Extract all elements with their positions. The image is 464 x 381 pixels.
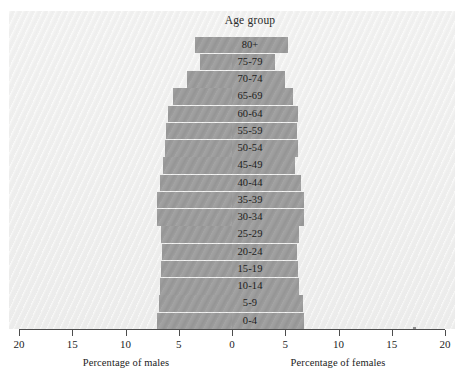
axis-caption-females: Percentage of females [238,357,438,368]
bar-male[interactable] [166,123,232,140]
pyramid-band: 75-79 [0,54,464,71]
pyramid-band: 25-29 [0,226,464,243]
bar-male[interactable] [165,140,232,157]
x-tick [19,330,20,336]
bar-female[interactable] [232,244,297,261]
bar-female[interactable] [232,192,304,209]
bar-male[interactable] [162,244,232,261]
bar-female[interactable] [232,278,299,295]
pyramid-band: 55-59 [0,123,464,140]
pyramid-band: 5-9 [0,295,464,312]
bar-male[interactable] [187,71,232,88]
x-tick [339,330,340,336]
x-tick-label: 0 [212,338,252,350]
x-tick [232,330,233,336]
x-tick [445,330,446,336]
pyramid-band: 10-14 [0,278,464,295]
bar-female[interactable] [232,261,298,278]
bar-male[interactable] [173,88,232,105]
bar-female[interactable] [232,140,298,157]
pyramid-band: 80+ [0,37,464,54]
pyramid-band: 30-34 [0,209,464,226]
pyramid-band: 45-49 [0,157,464,174]
bar-female[interactable] [232,226,299,243]
bar-male[interactable] [200,54,232,71]
bar-male[interactable] [157,313,232,330]
pyramid-band: 65-69 [0,88,464,105]
bar-female[interactable] [232,157,295,174]
bar-female[interactable] [232,123,297,140]
x-tick-label: 5 [159,338,199,350]
bars-layer: 80+75-7970-7465-6960-6455-5950-5445-4940… [0,0,464,381]
bar-female[interactable] [232,175,301,192]
bar-female[interactable] [232,313,304,330]
x-tick [126,330,127,336]
x-tick [179,330,180,336]
x-tick-label: 20 [425,338,464,350]
bar-female[interactable] [232,106,298,123]
pyramid-band: 35-39 [0,192,464,209]
x-tick [392,330,393,336]
x-tick-label: 15 [52,338,92,350]
bar-female[interactable] [232,71,285,88]
bar-male[interactable] [159,295,232,312]
bar-female[interactable] [232,88,293,105]
x-tick [72,330,73,336]
bar-male[interactable] [161,226,232,243]
bar-male[interactable] [157,209,232,226]
pyramid-band: 0-4 [0,313,464,330]
x-tick-label: 10 [319,338,359,350]
axis-caption-males: Percentage of males [26,357,226,368]
population-pyramid-figure: Age group 80+75-7970-7465-6960-6455-5950… [0,0,464,381]
bar-male[interactable] [163,157,232,174]
pyramid-band: 15-19 [0,261,464,278]
bar-female[interactable] [232,54,275,71]
x-tick-label: 15 [372,338,412,350]
bar-male[interactable] [161,261,232,278]
bar-female[interactable] [232,295,303,312]
pyramid-band: 50-54 [0,140,464,157]
bar-male[interactable] [157,192,232,209]
bar-male[interactable] [168,106,232,123]
bar-female[interactable] [232,37,288,54]
pyramid-band: 40-44 [0,175,464,192]
bar-male[interactable] [195,37,232,54]
bar-male[interactable] [160,175,232,192]
stray-tick-mark [413,327,416,329]
bar-male[interactable] [160,278,232,295]
x-tick-label: 20 [0,338,39,350]
pyramid-band: 70-74 [0,71,464,88]
x-tick [285,330,286,336]
pyramid-band: 60-64 [0,106,464,123]
x-tick-label: 5 [265,338,305,350]
pyramid-band: 20-24 [0,244,464,261]
bar-female[interactable] [232,209,304,226]
x-tick-label: 10 [106,338,146,350]
